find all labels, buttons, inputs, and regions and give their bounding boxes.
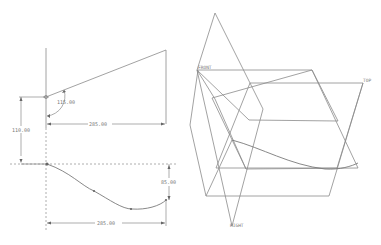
spline-vertical-dimension[interactable]: 85.00 [161, 179, 176, 185]
box-right-edge [329, 83, 363, 196]
arrowhead-icon [168, 196, 171, 200]
sloped-line[interactable] [46, 50, 166, 97]
arrowhead-icon [161, 123, 165, 126]
spline-curve[interactable] [47, 164, 166, 209]
horizontal-dimension[interactable]: 285.00 [89, 121, 107, 127]
angle-dimension[interactable]: 115.00 [57, 99, 75, 105]
datum-plane-front[interactable] [212, 70, 358, 169]
front-plane-label[interactable]: FRONT [198, 65, 212, 70]
cad-canvas[interactable]: 115.00 285.00 110.00 85.00 [0, 0, 381, 245]
spline-start-point[interactable] [45, 162, 48, 165]
datum-planes-3d: FRONT TOP RIGHT [190, 13, 371, 228]
upper-sketch: 115.00 285.00 110.00 [11, 48, 166, 163]
rhombus-lower-left-edge [190, 125, 206, 196]
spline-horizontal-dimension[interactable]: 285.00 [97, 220, 115, 226]
top-plane-label[interactable]: TOP [363, 78, 371, 83]
arrowhead-icon [168, 165, 171, 169]
arrowhead-icon [47, 123, 51, 126]
spline-point[interactable] [93, 190, 95, 192]
vertical-dimension[interactable]: 110.00 [12, 127, 30, 133]
spline-point[interactable] [130, 208, 132, 210]
arrowhead-icon [20, 159, 23, 163]
arrowhead-icon [161, 222, 165, 225]
arrowhead-icon [47, 114, 50, 118]
lower-sketch: 85.00 285.00 [10, 128, 178, 232]
rhombus-left-edge [190, 70, 198, 125]
right-plane-label[interactable]: RIGHT [230, 223, 244, 228]
datum-plane-front-top[interactable] [197, 70, 338, 121]
arrowhead-icon [20, 97, 23, 101]
arrowhead-icon [47, 222, 51, 225]
